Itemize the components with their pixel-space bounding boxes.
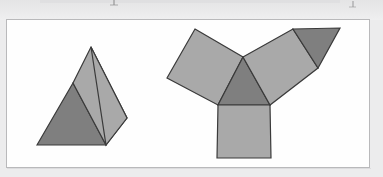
page-background (0, 0, 383, 177)
triangular-prism-solid (37, 47, 127, 145)
geometry-diagram (0, 0, 383, 177)
triangular-prism-net (167, 28, 340, 158)
net-bottom-square-flap (217, 105, 271, 158)
